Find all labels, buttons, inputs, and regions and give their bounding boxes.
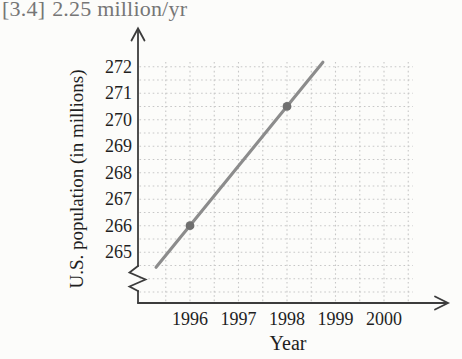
data-point — [283, 102, 292, 111]
y-tick-label: 266 — [105, 216, 132, 236]
y-tick-label: 270 — [105, 110, 132, 130]
x-tick-label: 1997 — [221, 309, 257, 329]
x-tick-label: 1998 — [269, 309, 305, 329]
population-line-chart: 2652662672682692702712721996199719981999… — [0, 0, 462, 359]
x-tick-label: 2000 — [366, 309, 402, 329]
y-tick-label: 268 — [105, 163, 132, 183]
y-axis-break — [130, 266, 146, 291]
y-tick-label: 269 — [105, 136, 132, 156]
y-tick-label: 265 — [105, 242, 132, 262]
figure-canvas: [3.4]2.25 million/yr 2652662672682692702… — [0, 0, 462, 359]
x-axis-title: Year — [270, 332, 307, 354]
x-tick-label: 1996 — [172, 309, 208, 329]
y-tick-label: 267 — [105, 189, 132, 209]
y-tick-label: 272 — [105, 57, 132, 77]
data-point — [186, 221, 195, 230]
y-axis-title: U.S. population (in millions) — [66, 69, 88, 288]
trend-line — [156, 62, 323, 267]
x-tick-label: 1999 — [318, 309, 354, 329]
y-tick-label: 271 — [105, 83, 132, 103]
